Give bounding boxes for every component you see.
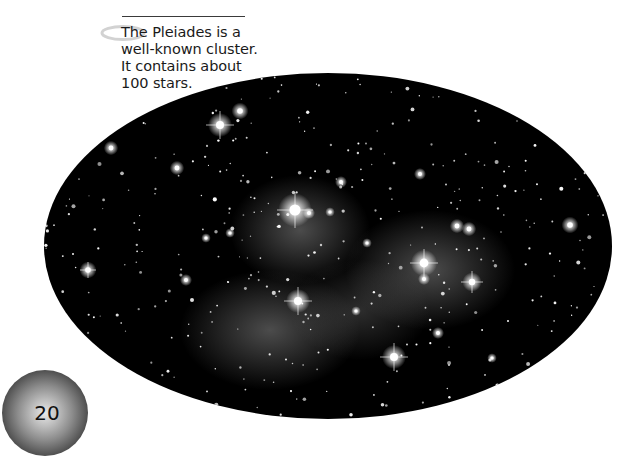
page-number: 20 [4,370,90,456]
pleiades-photo [0,0,632,459]
page-number-badge: 20 [2,370,88,456]
